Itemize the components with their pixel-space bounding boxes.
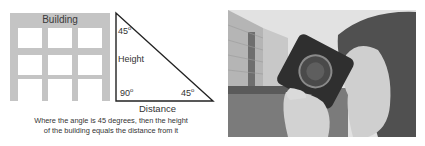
distance-label: Distance [139, 103, 176, 114]
caption: Where the angle is 45 degrees, then the … [0, 116, 222, 136]
top-angle-label: 45o [118, 26, 131, 36]
camera-photo [228, 10, 416, 137]
photo-illustration [228, 10, 416, 137]
height-label: Height [118, 54, 144, 64]
bottom-angle-label: 45o [181, 88, 194, 98]
right-angle-label: 90o [120, 88, 133, 98]
angle-diagram: Building 45o Height 90o 45o Distance Whe… [0, 0, 222, 146]
caption-line-2: of the building equals the distance from… [0, 126, 222, 136]
caption-line-1: Where the angle is 45 degrees, then the … [0, 116, 222, 126]
